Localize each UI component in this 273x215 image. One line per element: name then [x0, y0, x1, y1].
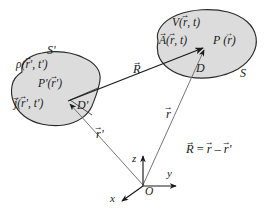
- field-surface-label: S: [240, 67, 246, 79]
- equation: R=r–r': [186, 143, 231, 156]
- scalar-potential-symbol: V: [172, 16, 179, 28]
- equation-relation: =: [197, 142, 204, 156]
- field-point-label: P (r): [213, 34, 236, 46]
- vector-potential-symbol: A: [159, 35, 166, 47]
- field-point-args: (r): [220, 33, 236, 47]
- vector-potential-args: (r, t): [166, 34, 187, 46]
- charge-density-args: (r', t'): [22, 58, 48, 70]
- field-scalar-potential-label: V(r, t): [172, 17, 200, 29]
- axis-y-label: y: [167, 168, 172, 179]
- axis-x-label: x: [110, 193, 115, 204]
- source-charge-density-label: ρ(r', t'): [16, 59, 48, 71]
- equation-lhs: R: [186, 143, 194, 156]
- source-volume-label: D': [77, 99, 88, 111]
- field-volume-label: D: [196, 62, 205, 74]
- source-surface-label: S': [47, 44, 56, 56]
- current-density-symbol: j: [14, 98, 17, 110]
- physics-diagram: S' ρ(r', t') P'(r') j(r', t') D' V(r, t)…: [0, 0, 273, 215]
- charge-density-symbol: ρ: [16, 58, 22, 70]
- axis-x: [122, 186, 143, 201]
- equation-operator: –: [215, 142, 221, 156]
- source-current-density-label: j(r', t'): [14, 98, 43, 110]
- vector-r-prime-label: r': [96, 128, 104, 141]
- field-vector-potential-label: A(r, t): [159, 35, 187, 47]
- source-point-label: P'(r'): [38, 78, 62, 90]
- origin-label: O: [145, 186, 153, 198]
- current-density-args: (r', t'): [17, 97, 43, 109]
- scalar-potential-args: (r, t): [179, 16, 200, 28]
- vector-r-label: r: [166, 108, 171, 121]
- vector-R-label: R: [133, 63, 141, 76]
- axis-z-label: z: [132, 153, 136, 164]
- vector-r-prime-arrow: [70, 104, 143, 185]
- source-point-args: (r'): [47, 77, 62, 89]
- equation-term1: r: [207, 143, 212, 156]
- equation-term2-symbol: r: [224, 143, 229, 156]
- r-prime-symbol: r: [96, 128, 101, 141]
